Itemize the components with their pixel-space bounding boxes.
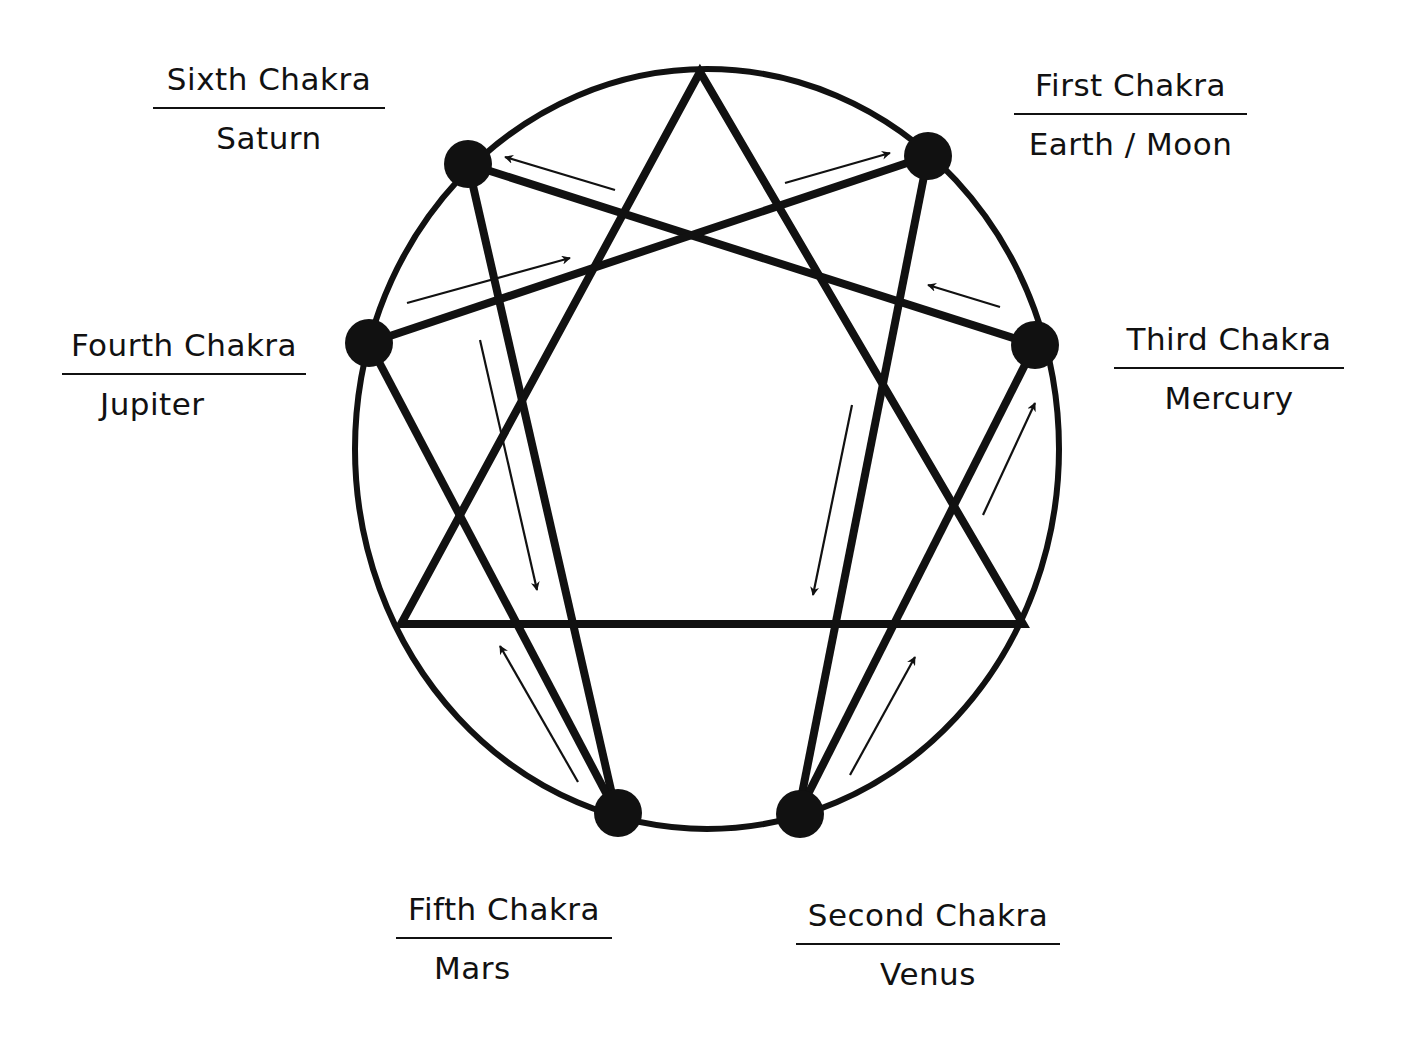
label-first-chakra: First Chakra Earth / Moon [1014,70,1247,160]
chakra-name: Sixth Chakra [153,64,385,107]
flow-arrow-icon [785,153,890,183]
label-fifth-chakra: Fifth Chakra Mars [396,894,612,984]
chakra-name: Third Chakra [1114,324,1344,367]
label-sixth-chakra: Sixth Chakra Saturn [153,64,385,154]
hexad-lines [369,156,1035,814]
flow-arrow-icon [983,403,1035,515]
chakra-name: Fifth Chakra [396,894,612,937]
hexad-line [369,343,616,812]
planet-name: Earth / Moon [1014,115,1247,160]
planet-name: Jupiter [62,375,306,420]
node-fourth-chakra [345,319,393,367]
chakra-name: Fourth Chakra [62,330,306,373]
node-second-chakra [776,790,824,838]
node-third-chakra [1011,321,1059,369]
flow-arrow-icon [850,657,915,775]
planet-name: Mars [396,939,612,984]
planet-name: Saturn [153,109,385,154]
label-fourth-chakra: Fourth Chakra Jupiter [62,330,306,420]
planet-name: Mercury [1114,369,1344,414]
chakra-name: First Chakra [1014,70,1247,113]
planet-name: Venus [796,945,1060,990]
node-sixth-chakra [444,140,492,188]
label-second-chakra: Second Chakra Venus [796,900,1060,990]
node-fifth-chakra [594,789,642,837]
chakra-name: Second Chakra [796,900,1060,943]
hexad-line [798,156,928,814]
hexad-line [468,164,1035,345]
node-first-chakra [904,132,952,180]
flow-arrow-icon [928,285,1000,307]
label-third-chakra: Third Chakra Mercury [1114,324,1344,414]
